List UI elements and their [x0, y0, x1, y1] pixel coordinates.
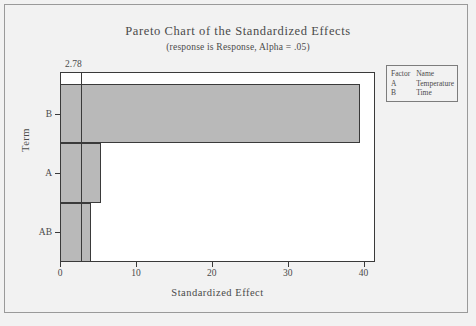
- legend: Factor Name ATemperatureBTime: [386, 65, 458, 102]
- x-tick-label-10: 10: [131, 268, 141, 278]
- y-tick-b: [55, 114, 60, 115]
- y-tick-label-ab: AB: [0, 227, 52, 237]
- x-tick-40: [364, 262, 365, 267]
- y-tick-label-a: A: [0, 168, 52, 178]
- legend-name: Temperature: [416, 79, 460, 88]
- x-tick-10: [136, 262, 137, 267]
- legend-header-row: Factor Name: [391, 69, 460, 79]
- legend-row: ATemperature: [391, 79, 460, 88]
- legend-name: Time: [416, 88, 460, 97]
- legend-table: Factor Name ATemperatureBTime: [391, 69, 460, 97]
- y-axis-title: Term: [20, 128, 31, 152]
- pareto-chart: Pareto Chart of the Standardized Effects…: [0, 0, 476, 326]
- x-tick-label-0: 0: [58, 268, 63, 278]
- x-tick-0: [60, 262, 61, 267]
- legend-row: BTime: [391, 88, 460, 97]
- y-tick-label-b: B: [0, 109, 52, 119]
- reference-line-label: 2.78: [65, 59, 82, 69]
- legend-body: ATemperatureBTime: [391, 79, 460, 97]
- y-tick-ab: [55, 232, 60, 233]
- page-title: Pareto Chart of the Standardized Effects: [0, 24, 476, 39]
- legend-header-factor: Factor: [391, 69, 416, 79]
- legend-header-name: Name: [416, 69, 460, 79]
- bar-b: [60, 84, 360, 143]
- x-axis-title: Standardized Effect: [60, 287, 375, 298]
- y-tick-a: [55, 173, 60, 174]
- bar-ab: [60, 203, 91, 262]
- reference-line: [81, 72, 82, 262]
- x-tick-30: [288, 262, 289, 267]
- legend-factor: A: [391, 79, 416, 88]
- legend-factor: B: [391, 88, 416, 97]
- x-tick-label-20: 20: [207, 268, 217, 278]
- x-tick-20: [212, 262, 213, 267]
- chart-subtitle: (response is Response, Alpha = .05): [0, 42, 476, 52]
- x-tick-label-30: 30: [283, 268, 293, 278]
- x-tick-label-40: 40: [359, 268, 369, 278]
